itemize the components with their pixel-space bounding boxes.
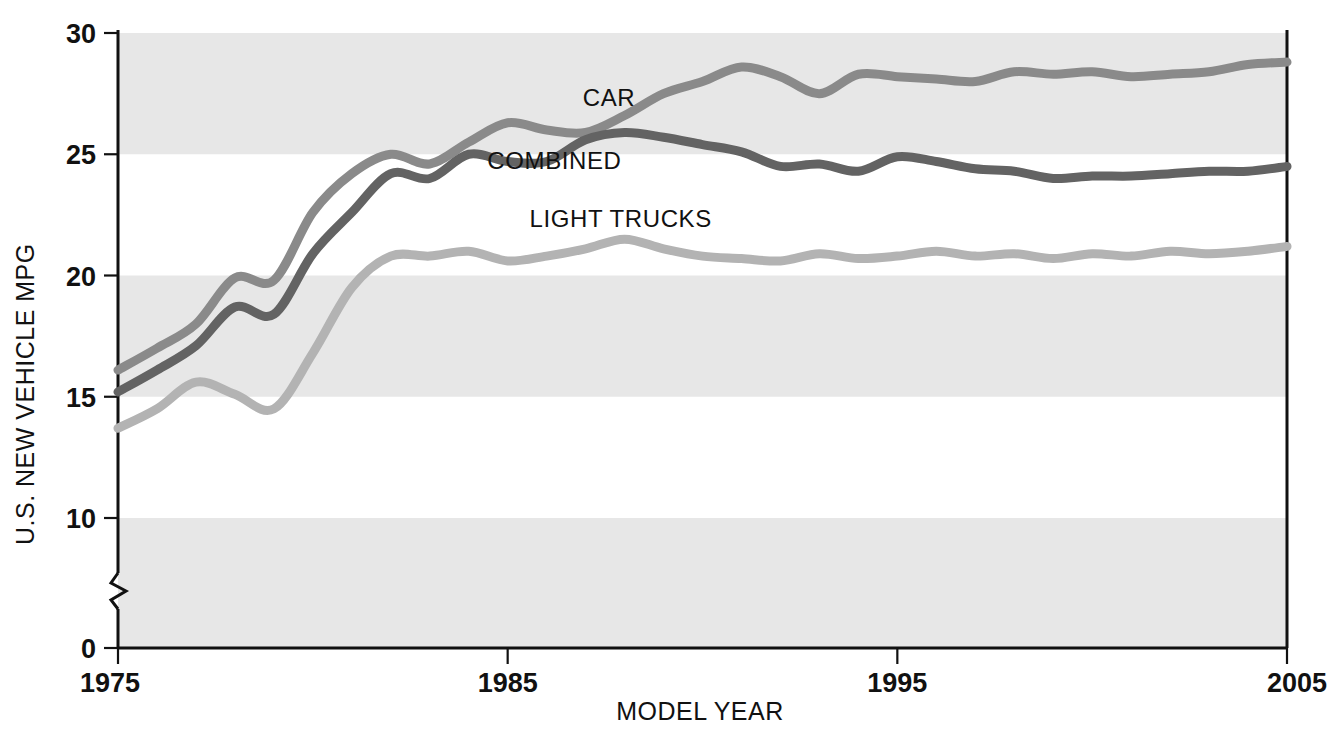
shaded-band-group xyxy=(118,33,1287,648)
x-tick-label-2005: 2005 xyxy=(1267,668,1327,698)
y-tick-label-10: 10 xyxy=(66,504,96,534)
y-tick-label-30: 30 xyxy=(66,19,96,49)
chart-figure: 01015202530 1975198519952005 CARCOMBINED… xyxy=(0,0,1327,735)
y-axis-title: U.S. NEW VEHICLE MPG xyxy=(11,243,39,545)
mpg-line-chart: 01015202530 1975198519952005 CARCOMBINED… xyxy=(0,0,1327,735)
y-tick-label-25: 25 xyxy=(66,140,96,170)
x-tick-group xyxy=(118,648,1287,664)
y-tick-label-15: 15 xyxy=(66,383,96,413)
y-tick-label-20: 20 xyxy=(66,262,96,292)
series-label-car: CAR xyxy=(583,84,635,111)
y-tick-group xyxy=(104,33,118,648)
x-tick-label-1975: 1975 xyxy=(80,668,140,698)
y-tick-label-0: 0 xyxy=(81,634,96,664)
shaded-band-0 xyxy=(118,33,1287,154)
x-tick-label-group: 1975198519952005 xyxy=(80,668,1327,698)
series-label-combined: COMBINED xyxy=(487,147,621,174)
y-tick-label-group: 01015202530 xyxy=(66,19,96,664)
series-label-light-trucks: LIGHT TRUCKS xyxy=(529,205,711,232)
shaded-band-2 xyxy=(118,518,1287,648)
x-tick-label-1985: 1985 xyxy=(478,668,538,698)
x-tick-label-1995: 1995 xyxy=(867,668,927,698)
x-axis-title: MODEL YEAR xyxy=(616,697,784,725)
